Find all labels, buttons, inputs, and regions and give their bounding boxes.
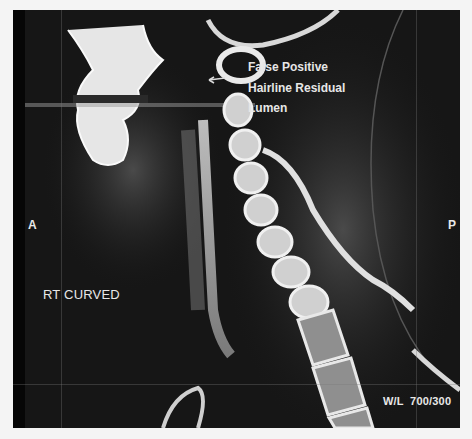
dental-artifact xyxy=(73,95,148,103)
orientation-anterior: A xyxy=(28,218,37,232)
reformat-label: RT CURVED xyxy=(43,287,120,302)
orientation-posterior: P xyxy=(448,218,456,232)
ct-scan-image xyxy=(13,10,460,428)
grid-line-vertical xyxy=(61,10,62,428)
dental-artifact-streak xyxy=(25,103,255,107)
jugular-vein xyxy=(188,130,198,310)
annotation-line-1: False Positive xyxy=(248,60,328,74)
left-arrow-icon xyxy=(209,77,225,83)
window-level-readout: W/L 700/300 xyxy=(383,395,451,407)
annotation-line-2: Hairline Residual xyxy=(248,81,345,95)
ct-image-frame: False Positive Hairline Residual Lumen A… xyxy=(13,10,460,428)
grid-line-horizontal xyxy=(13,384,460,385)
grid-line-vertical xyxy=(416,10,417,428)
annotation-line-3: Lumen xyxy=(248,101,287,115)
clavicle xyxy=(163,388,203,428)
edge-strip xyxy=(13,10,25,428)
